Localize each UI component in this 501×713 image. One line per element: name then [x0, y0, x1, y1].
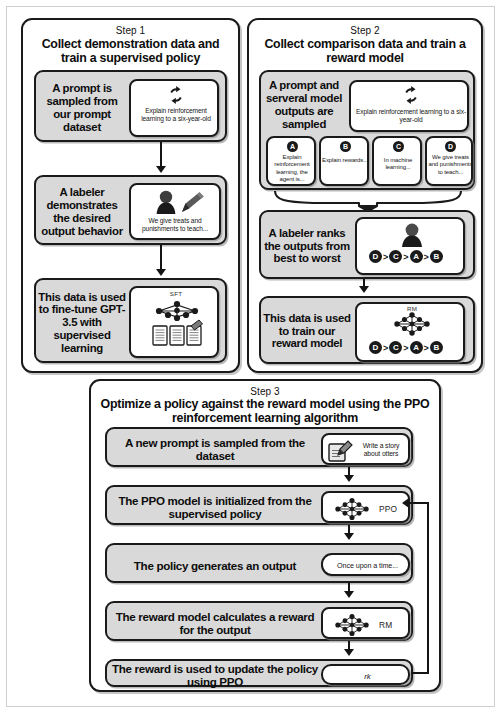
rm-rank-chip-3: A [410, 341, 423, 354]
step2-ranking-sequence: D > C > A > B [369, 250, 443, 263]
step3-output-side-text: Once upon a time... [323, 562, 412, 571]
step2-block-sampling: A prompt and serveral model outputs are … [259, 70, 475, 190]
step1-title: Collect demonstration data and train a s… [29, 37, 232, 65]
step3-new-prompt-card: Write a story about otters [321, 433, 410, 465]
rm-rank-chip-2: C [389, 341, 402, 354]
labeler-pencil-icon [149, 189, 207, 215]
neural-network-icon [335, 497, 369, 521]
step3-arrow-2-head [344, 533, 354, 540]
step3-ppo-card: PPO [321, 491, 410, 523]
output-letter-badge-a: A [287, 141, 298, 152]
rank-chip-3: A [410, 250, 423, 263]
rank-chip-1: D [369, 250, 382, 263]
step1-arrow-2 [160, 245, 162, 271]
step2-block-ranking-description: A labeler ranks the outputs from best to… [262, 215, 352, 277]
step2-ranking-card: D > C > A > B [355, 217, 465, 275]
step3-arrow-1-head [344, 475, 354, 482]
output-letter-badge-c: C [393, 141, 404, 152]
rm-rank-chip-1: D [369, 341, 382, 354]
labeler-icon [398, 222, 426, 248]
step3-feedback-line-right [427, 503, 429, 674]
step3-output-card: Once upon a time... [321, 553, 410, 576]
step2-panel: Step 2 Collect comparison data and train… [247, 18, 483, 373]
step3-arrow-4-head [344, 649, 354, 656]
step3-feedback-arrow-head [402, 498, 409, 508]
circular-arrows-icon [165, 85, 187, 105]
step3-new-prompt-side-text: Write a story about otters [354, 442, 408, 459]
step1-sft-card: SFT [129, 286, 219, 358]
step3-row-new-prompt: A new prompt is sampled from the dataset… [105, 427, 413, 467]
step3-step-label: Step 3 [91, 386, 439, 397]
step2-arrow-1-head [359, 286, 369, 293]
step1-arrow-2-head [156, 269, 166, 276]
step2-output-text-d: We give treats and punishments to teach.… [428, 154, 473, 176]
step2-rm-ranking-sequence: D > C > A > B [369, 341, 443, 354]
step3-arrow-3-head [344, 591, 354, 598]
step3-row-update-description: The reward is used to update the policy … [111, 661, 319, 689]
step3-row-generate-description: The policy generates an output [111, 545, 319, 585]
step2-output-card-c: C In machine learning... [372, 136, 422, 186]
step1-sft-model-label: SFT [131, 290, 221, 297]
step1-arrow-1 [160, 142, 162, 168]
rank-chip-2: C [389, 250, 402, 263]
step3-ppo-side-label: PPO [379, 504, 397, 514]
step1-arrow-1-head [156, 166, 166, 173]
step2-block-train-rm: This data is used to train our reward mo… [259, 296, 475, 364]
step2-prompt-card: Explain reinforcement learning to a six-… [349, 80, 469, 132]
step2-output-text-a: Explain reinforcement learning, the agen… [269, 154, 315, 183]
step3-reward-value-card: rk [321, 664, 410, 685]
neural-network-icon [335, 613, 369, 637]
step2-block-sampling-description: A prompt and serveral model outputs are … [262, 75, 346, 135]
step2-output-text-c: In machine learning... [375, 157, 421, 172]
step3-row-reward-description: The reward model calculates a reward for… [111, 603, 319, 643]
step1-prompt-sample-text: Explain reinforcement learning to a six-… [135, 107, 217, 123]
neural-network-documents-icon [149, 298, 205, 354]
step2-rm-card: RM [355, 302, 465, 362]
step3-title: Optimize a policy against the reward mod… [97, 397, 433, 425]
step3-row-new-prompt-description: A new prompt is sampled from the dataset [111, 429, 319, 469]
step1-step-label: Step 1 [23, 25, 238, 36]
step1-block-labeler-description: A labeler demonstrates the desired outpu… [38, 181, 126, 243]
step1-block-finetune-description: This data is used to fine-tune GPT-3.5 w… [38, 284, 126, 361]
step2-block-train-rm-description: This data is used to train our reward mo… [262, 301, 352, 361]
step3-row-reward: The reward model calculates a reward for… [105, 601, 413, 641]
step3-rm-side-label: RM [379, 620, 392, 630]
step1-block-prompt-description: A prompt is sampled from our prompt data… [40, 76, 124, 140]
rm-rank-chip-4: B [430, 341, 443, 354]
rm-rank-separator-3: > [424, 343, 429, 353]
step1-block-labeler: A labeler demonstrates the desired outpu… [34, 175, 227, 245]
circular-arrows-icon [400, 85, 422, 105]
output-letter-badge-b: B [340, 141, 351, 152]
step1-panel: Step 1 Collect demonstration data and tr… [21, 18, 240, 373]
step2-output-card-a: A Explain reinforcement learning, the ag… [266, 136, 316, 186]
step2-block-ranking: A labeler ranks the outputs from best to… [259, 210, 475, 279]
document-pencil-icon [327, 439, 353, 463]
output-letter-badge-d: D [445, 141, 456, 152]
rm-rank-separator-1: > [383, 343, 388, 353]
step2-title: Collect comparison data and train a rewa… [255, 37, 475, 65]
rank-separator-1: > [383, 252, 388, 262]
step3-row-ppo-init: The PPO model is initialized from the su… [105, 485, 413, 525]
step1-prompt-card: Explain reinforcement learning to a six-… [129, 79, 219, 137]
rm-rank-separator-2: > [403, 343, 408, 353]
step2-step-label: Step 2 [249, 25, 481, 36]
step3-feedback-line-top [409, 502, 429, 504]
step2-output-text-b: Explain rewards... [322, 157, 368, 164]
step2-rm-model-label: RM [357, 305, 467, 312]
step2-output-card-b: B Explain rewards... [319, 136, 369, 186]
step3-row-generate: The policy generates an output Once upon… [105, 543, 413, 583]
step3-row-update: The reward is used to update the policy … [105, 659, 413, 687]
step3-reward-value-text: rk [323, 672, 412, 682]
step2-funnel-connector [273, 190, 463, 212]
step3-row-ppo-init-description: The PPO model is initialized from the su… [111, 487, 319, 527]
page-frame: Step 1 Collect demonstration data and tr… [6, 6, 495, 707]
step2-prompt-sample-text: Explain reinforcement learning to a six-… [354, 108, 468, 124]
neural-network-icon [394, 312, 430, 336]
step3-rm-card: RM [321, 607, 410, 639]
rank-separator-3: > [424, 252, 429, 262]
step3-panel: Step 3 Optimize a policy against the rew… [89, 379, 441, 692]
step2-output-card-d: D We give treats and punishments to teac… [425, 136, 473, 186]
step1-labeler-card: We give treats and punishments to teach.… [129, 183, 221, 240]
rank-separator-2: > [403, 252, 408, 262]
step1-block-finetune: This data is used to fine-tune GPT-3.5 w… [34, 278, 227, 363]
